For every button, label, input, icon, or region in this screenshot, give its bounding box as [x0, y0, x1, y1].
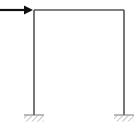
fixed-support-icon	[24, 115, 44, 122]
portal-frame-diagram	[0, 0, 136, 128]
arrow-right-icon	[0, 6, 33, 15]
frame-svg	[0, 0, 136, 128]
fixed-support-icon	[114, 115, 134, 122]
